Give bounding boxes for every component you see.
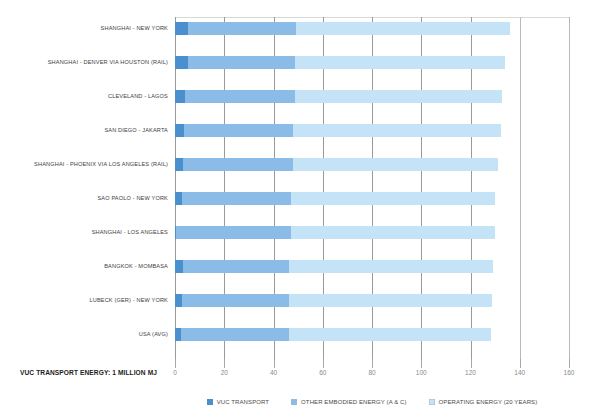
bar-segment-operating-energy[interactable] <box>295 56 505 69</box>
bar-segment-vuc-transport[interactable] <box>175 90 185 103</box>
x-tick-label-140: 140 <box>514 369 525 376</box>
bar-segment-vuc-transport[interactable] <box>175 22 188 35</box>
bar-segment-other-embodied-energy[interactable] <box>176 226 290 239</box>
x-tick-mark-20 <box>224 359 225 368</box>
x-tick-label-60: 60 <box>319 369 326 376</box>
category-label: BANGKOK - MOMBASA <box>0 260 168 273</box>
category-label: SHANGHAI - PHOENIX VIA LOS ANGELES (RAIL… <box>0 158 168 171</box>
category-label: LUBECK (GER) - NEW YORK <box>0 294 168 307</box>
bar-row[interactable] <box>175 56 505 69</box>
bar-segment-operating-energy[interactable] <box>291 226 495 239</box>
category-label: SAN DIEGO - JAKARTA <box>0 124 168 137</box>
legend-swatch-other-embodied-energy <box>291 399 297 405</box>
x-tick-label-20: 20 <box>221 369 228 376</box>
bar-segment-operating-energy[interactable] <box>291 192 495 205</box>
bar-segment-vuc-transport[interactable] <box>175 124 184 137</box>
bar-segment-vuc-transport[interactable] <box>175 260 183 273</box>
x-tick-label-0: 0 <box>173 369 177 376</box>
x-tick-label-40: 40 <box>270 369 277 376</box>
bar-segment-other-embodied-energy[interactable] <box>185 90 295 103</box>
x-tick-label-120: 120 <box>465 369 476 376</box>
bar-row[interactable] <box>175 158 498 171</box>
bar-segment-operating-energy[interactable] <box>289 294 492 307</box>
bar-segment-operating-energy[interactable] <box>293 124 500 137</box>
bar-segment-other-embodied-energy[interactable] <box>183 260 289 273</box>
bar-segment-vuc-transport[interactable] <box>175 158 183 171</box>
x-tick-mark-60 <box>323 359 324 368</box>
stacked-bar-chart: SHANGHAI - NEW YORKSHANGHAI - DENVER VIA… <box>0 0 589 418</box>
bar-segment-other-embodied-energy[interactable] <box>188 56 296 69</box>
gridline-160 <box>569 17 570 359</box>
bar-row[interactable] <box>175 124 501 137</box>
x-tick-mark-80 <box>372 359 373 368</box>
bar-segment-other-embodied-energy[interactable] <box>188 22 296 35</box>
bar-row[interactable] <box>175 260 493 273</box>
x-tick-mark-0 <box>175 359 176 368</box>
bar-segment-vuc-transport[interactable] <box>175 294 182 307</box>
bar-row[interactable] <box>175 328 491 341</box>
x-tick-label-100: 100 <box>416 369 427 376</box>
category-label: USA (AVG) <box>0 328 168 341</box>
x-tick-label-160: 160 <box>564 369 575 376</box>
legend-swatch-operating-energy <box>429 399 435 405</box>
gridline-140 <box>520 17 521 359</box>
bar-segment-vuc-transport[interactable] <box>175 192 182 205</box>
bar-segment-operating-energy[interactable] <box>289 328 492 341</box>
legend-item-other-embodied-energy[interactable]: OTHER EMBODIED ENERGY (A & C) <box>291 399 406 405</box>
legend-label-vuc-transport: VUC TRANSPORT <box>217 399 269 405</box>
bar-segment-operating-energy[interactable] <box>293 158 498 171</box>
bar-row[interactable] <box>175 294 492 307</box>
bar-segment-operating-energy[interactable] <box>295 90 503 103</box>
bar-segment-vuc-transport[interactable] <box>175 56 188 69</box>
bar-row[interactable] <box>175 22 510 35</box>
bar-row[interactable] <box>175 192 495 205</box>
chart-legend: VUC TRANSPORT OTHER EMBODIED ENERGY (A &… <box>175 399 569 405</box>
bar-segment-operating-energy[interactable] <box>289 260 493 273</box>
bar-segment-other-embodied-energy[interactable] <box>181 328 288 341</box>
legend-item-operating-energy[interactable]: OPERATING ENERGY (20 YEARS) <box>429 399 538 405</box>
category-label: SHANGHAI - LOS ANGELES <box>0 226 168 239</box>
bar-segment-other-embodied-energy[interactable] <box>182 192 291 205</box>
x-tick-mark-140 <box>520 359 521 368</box>
bar-row[interactable] <box>175 90 503 103</box>
legend-label-operating-energy: OPERATING ENERGY (20 YEARS) <box>439 399 538 405</box>
category-label: SAO PAOLO - NEW YORK <box>0 192 168 205</box>
x-tick-mark-100 <box>421 359 422 368</box>
category-label: SHANGHAI - DENVER VIA HOUSTON (RAIL) <box>0 56 168 69</box>
category-label: SHANGHAI - NEW YORK <box>0 22 168 35</box>
category-label: CLEVELAND - LAGOS <box>0 90 168 103</box>
legend-swatch-vuc-transport <box>207 399 213 405</box>
bar-segment-operating-energy[interactable] <box>296 22 510 35</box>
bar-segment-other-embodied-energy[interactable] <box>184 124 294 137</box>
x-tick-mark-120 <box>471 359 472 368</box>
x-tick-label-80: 80 <box>368 369 375 376</box>
bar-segment-other-embodied-energy[interactable] <box>182 294 288 307</box>
axis-title: VUC TRANSPORT ENERGY: 1 MILLION MJ <box>20 369 168 376</box>
x-tick-mark-40 <box>274 359 275 368</box>
x-tick-mark-160 <box>569 359 570 368</box>
legend-label-other-embodied-energy: OTHER EMBODIED ENERGY (A & C) <box>301 399 406 405</box>
bar-row[interactable] <box>175 226 495 239</box>
legend-item-vuc-transport[interactable]: VUC TRANSPORT <box>207 399 269 405</box>
bar-segment-other-embodied-energy[interactable] <box>183 158 292 171</box>
